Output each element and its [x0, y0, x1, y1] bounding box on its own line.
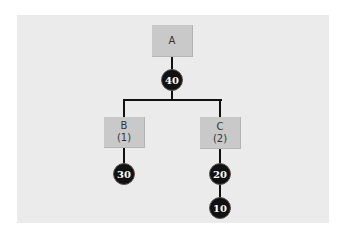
- node-a: A: [152, 25, 193, 57]
- node-c: C (2): [200, 117, 241, 149]
- value-circle-20: 20: [209, 163, 231, 185]
- node-b-label: B: [121, 120, 128, 132]
- node-b: B (1): [104, 117, 145, 148]
- value-40-text: 40: [165, 75, 179, 86]
- node-c-sublabel: (2): [213, 133, 227, 145]
- value-30-text: 30: [117, 169, 131, 180]
- value-circle-30: 30: [113, 163, 135, 185]
- value-circle-40: 40: [161, 69, 183, 91]
- value-10-text: 10: [213, 203, 227, 214]
- value-circle-10: 10: [209, 197, 231, 219]
- value-20-text: 20: [213, 169, 227, 180]
- connector-to-c: [219, 99, 221, 117]
- connector-to-b: [123, 99, 125, 117]
- node-b-sublabel: (1): [117, 132, 131, 144]
- node-c-label: C: [217, 121, 224, 133]
- connector-horizontal: [123, 99, 222, 101]
- node-a-label: A: [169, 35, 176, 47]
